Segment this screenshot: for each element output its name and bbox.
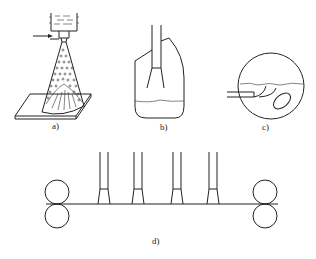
panel-label-b: b) bbox=[160, 123, 168, 132]
roller-icon bbox=[45, 180, 69, 204]
panel-b-vessel-diagram bbox=[135, 25, 184, 118]
gas-inlet-arrow-icon bbox=[33, 34, 59, 39]
diagram-canvas: a) b) c) d) bbox=[0, 0, 316, 259]
panel-c-drum-diagram bbox=[227, 53, 304, 119]
nozzle-icon bbox=[132, 152, 144, 204]
roller-icon bbox=[253, 180, 277, 204]
panel-label-d: d) bbox=[152, 237, 160, 246]
substrate-plate bbox=[15, 94, 91, 119]
nozzle-icon bbox=[171, 152, 183, 204]
panel-a-spray-diagram bbox=[15, 13, 91, 119]
panel-label-c: c) bbox=[262, 123, 269, 132]
roller-icon bbox=[253, 204, 277, 228]
panel-d-strip-diagram bbox=[45, 152, 278, 228]
panel-label-a: a) bbox=[52, 122, 59, 131]
nozzle-icon bbox=[98, 152, 110, 204]
roller-icon bbox=[45, 204, 69, 228]
crucible-icon bbox=[49, 13, 79, 42]
spray-cone bbox=[42, 42, 84, 114]
nozzle-icon bbox=[207, 152, 219, 204]
